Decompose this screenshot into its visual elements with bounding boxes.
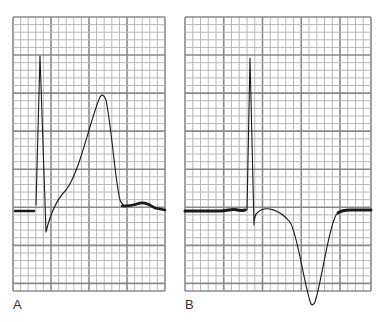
panel-label-a: A xyxy=(13,297,22,312)
ecg-trace-a xyxy=(36,56,165,232)
grid-panel-b xyxy=(185,17,371,291)
panel-label-b: B xyxy=(185,297,194,312)
grid-panel-a xyxy=(13,17,165,291)
ecg-canvas xyxy=(0,0,383,322)
